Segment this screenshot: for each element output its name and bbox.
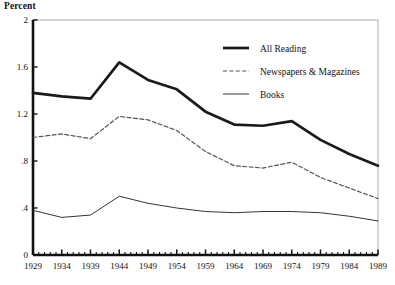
x-axis-ticks: 1929193419391944194919541959196419691974… — [24, 250, 388, 272]
y-tick-label: 1.6 — [17, 62, 29, 72]
series-line-all-reading — [33, 62, 378, 165]
y-tick-label: .8 — [21, 156, 28, 166]
y-tick-label: 0 — [24, 250, 29, 260]
x-tick-label: 1974 — [283, 261, 302, 271]
legend-label: Newspapers & Magazines — [260, 67, 360, 77]
x-tick-label: 1944 — [110, 261, 129, 271]
x-tick-label: 1989 — [369, 261, 388, 271]
x-tick-label: 1969 — [254, 261, 273, 271]
legend-label: Books — [260, 90, 285, 100]
x-tick-label: 1959 — [197, 261, 216, 271]
y-tick-label: 1.2 — [17, 109, 28, 119]
y-tick-label: .4 — [21, 203, 28, 213]
x-tick-label: 1939 — [82, 261, 101, 271]
chart-legend: All ReadingNewspapers & MagazinesBooks — [223, 44, 360, 100]
chart-container: Percent 0.4.81.21.62 1929193419391944194… — [0, 0, 395, 285]
x-tick-label: 1949 — [139, 261, 158, 271]
series-line-books — [33, 196, 378, 221]
x-tick-label: 1979 — [312, 261, 331, 271]
series-line-newspapers-magazines — [33, 116, 378, 198]
x-tick-label: 1984 — [340, 261, 359, 271]
x-tick-label: 1929 — [24, 261, 43, 271]
x-tick-label: 1964 — [225, 261, 244, 271]
line-chart: 0.4.81.21.62 192919341939194419491954195… — [0, 0, 395, 285]
x-tick-label: 1934 — [53, 261, 72, 271]
x-tick-label: 1954 — [168, 261, 187, 271]
legend-label: All Reading — [260, 44, 306, 54]
data-series-group — [33, 62, 378, 221]
y-tick-label: 2 — [24, 15, 29, 25]
